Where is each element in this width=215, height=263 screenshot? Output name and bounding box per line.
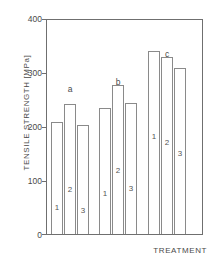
bar-index-label: 2 bbox=[65, 186, 75, 194]
bar-index-label: 2 bbox=[162, 139, 172, 147]
bar-index-label: 3 bbox=[126, 185, 136, 193]
axis-frame-right bbox=[202, 19, 203, 235]
bar-index-label: 2 bbox=[113, 167, 123, 175]
bar-index-label: 1 bbox=[149, 133, 159, 141]
bar-b1: 1 bbox=[99, 108, 111, 234]
y-axis-tick-labels: 400 300 200 100 0 bbox=[14, 0, 42, 263]
bar-c1: 1 bbox=[148, 51, 160, 234]
bar-index-label: 1 bbox=[52, 204, 62, 212]
y-tick-mark-400 bbox=[42, 19, 47, 20]
y-tick-label-200: 200 bbox=[16, 123, 42, 132]
bar-a1: 1 bbox=[51, 122, 63, 234]
y-tick-label-0: 0 bbox=[16, 231, 42, 240]
group-label-c: c bbox=[160, 49, 174, 59]
plot-area: 123123123 abc bbox=[46, 19, 203, 235]
x-axis-title: TREATMENT bbox=[0, 246, 207, 255]
y-tick-mark-0 bbox=[42, 234, 47, 235]
y-tick-label-100: 100 bbox=[16, 177, 42, 186]
bar-c3: 3 bbox=[174, 68, 186, 234]
bar-a2: 2 bbox=[64, 104, 76, 234]
bar-a3: 3 bbox=[77, 125, 89, 234]
y-tick-mark-200 bbox=[42, 127, 47, 128]
axis-frame-bottom bbox=[46, 234, 203, 235]
y-tick-label-300: 300 bbox=[16, 69, 42, 78]
bar-index-label: 3 bbox=[78, 207, 88, 215]
bar-b3: 3 bbox=[125, 103, 137, 234]
bar-b2: 2 bbox=[112, 85, 124, 234]
group-label-b: b bbox=[111, 77, 125, 87]
bar-chart: TENSILE STRENGTH [MPa] 400 300 200 100 0… bbox=[0, 0, 215, 263]
y-tick-mark-100 bbox=[42, 181, 47, 182]
bar-index-label: 1 bbox=[100, 190, 110, 198]
y-tick-mark-300 bbox=[42, 73, 47, 74]
bar-c2: 2 bbox=[161, 57, 173, 234]
y-tick-label-400: 400 bbox=[16, 15, 42, 24]
bar-index-label: 3 bbox=[175, 150, 185, 158]
axis-frame-top bbox=[46, 19, 203, 20]
group-label-a: a bbox=[63, 84, 77, 94]
